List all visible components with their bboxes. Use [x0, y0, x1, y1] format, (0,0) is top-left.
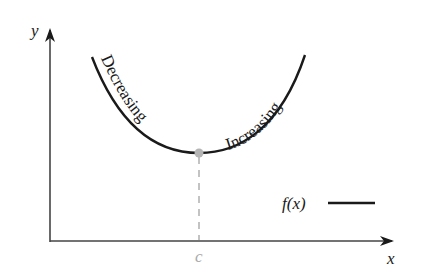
- critical-point-label: c: [195, 247, 203, 266]
- x-axis-label: x: [386, 249, 395, 268]
- legend-label: f(x): [282, 194, 306, 213]
- y-axis-label: y: [29, 21, 39, 40]
- increasing-label: Increasing: [223, 98, 285, 154]
- function-graph-figure: y x Decreasing Increasing c f(x): [0, 0, 424, 272]
- critical-point-dot: [195, 149, 204, 158]
